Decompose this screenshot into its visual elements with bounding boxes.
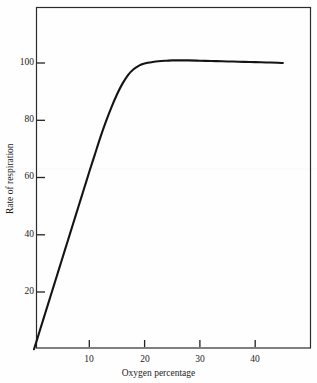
plot-frame — [37, 8, 311, 349]
y-tick-label-100: 100 — [0, 58, 34, 68]
y-tick-label-20: 20 — [0, 287, 34, 297]
x-tick-label-30: 30 — [180, 355, 220, 365]
x-tick-label-20: 20 — [125, 355, 165, 365]
respiration-curve — [34, 60, 283, 349]
plot-area — [0, 0, 317, 383]
y-axis-ticks — [37, 63, 45, 292]
y-axis-title: Rate of respiration — [6, 129, 16, 229]
respiration-oxygen-chart: 100 80 60 40 20 10 20 30 40 Oxygen perce… — [0, 0, 317, 383]
x-axis-ticks — [89, 340, 255, 347]
y-tick-label-80: 80 — [0, 115, 34, 125]
y-tick-label-40: 40 — [0, 230, 34, 240]
x-tick-label-10: 10 — [69, 355, 109, 365]
x-axis-title: Oxygen percentage — [0, 369, 317, 379]
x-tick-label-40: 40 — [235, 355, 275, 365]
